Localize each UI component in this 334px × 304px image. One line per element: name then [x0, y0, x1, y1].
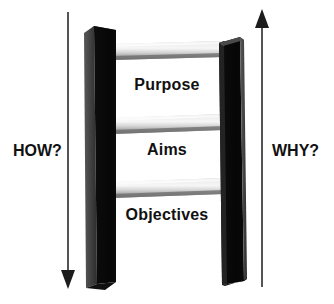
how-label: HOW? [13, 142, 62, 160]
why-arrow-up [255, 9, 269, 287]
how-arrow-down [61, 12, 75, 289]
rung-label-aims: Aims [112, 141, 222, 159]
right-rail [219, 37, 247, 286]
rung-middle [112, 114, 227, 134]
rung-label-objectives: Objectives [104, 206, 230, 224]
rung-top [112, 41, 227, 60]
ladder-diagram-canvas: Purpose Aims Objectives HOW? WHY? [0, 0, 334, 304]
rung-group [112, 41, 227, 198]
why-label: WHY? [272, 142, 319, 160]
rung-bottom [112, 178, 227, 198]
rung-label-purpose: Purpose [112, 76, 222, 94]
